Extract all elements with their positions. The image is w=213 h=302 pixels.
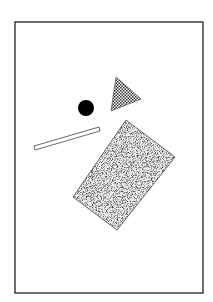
figure-canvas [0, 0, 213, 302]
black-circle [78, 100, 94, 116]
